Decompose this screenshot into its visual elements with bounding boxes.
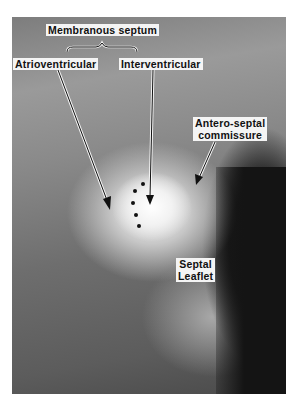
label-septal-leaflet: Septal Leaflet (176, 258, 215, 282)
atrioventricular-arrow (58, 70, 111, 210)
label-atrioventricular: Atrioventricular (13, 58, 98, 70)
label-septal-line2: Leaflet (178, 270, 213, 282)
label-antero-septal-line1: Antero-septal (195, 117, 265, 129)
label-septal-line1: Septal (178, 258, 213, 270)
interventricular-arrow (146, 70, 154, 205)
label-antero-septal-line2: commissure (195, 129, 265, 141)
label-antero-septal-commissure: Antero-septal commissure (193, 117, 267, 141)
label-interventricular: Interventricular (119, 58, 203, 70)
antero-septal-commissure-arrow (195, 142, 215, 185)
septum-outline-dots (131, 182, 145, 228)
label-membranous-septum: Membranous septum (46, 24, 159, 36)
